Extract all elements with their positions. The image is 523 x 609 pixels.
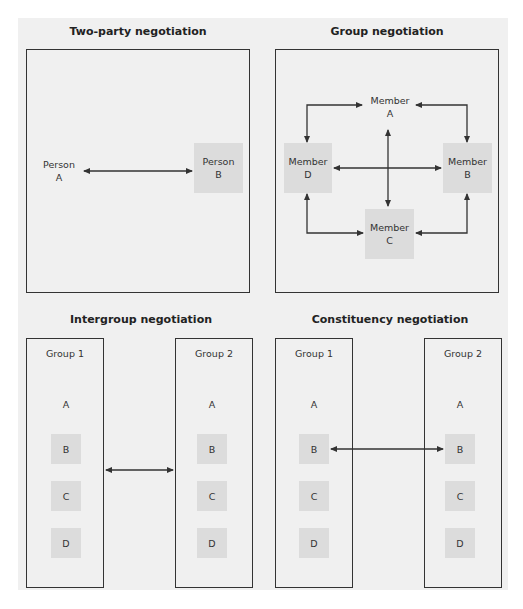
arrow-member-a-d — [307, 105, 362, 142]
arrow-member-b-c — [416, 194, 467, 233]
arrow-member-d-c — [307, 194, 363, 233]
arrows-layer — [0, 0, 523, 609]
arrow-member-a-b — [416, 105, 467, 142]
